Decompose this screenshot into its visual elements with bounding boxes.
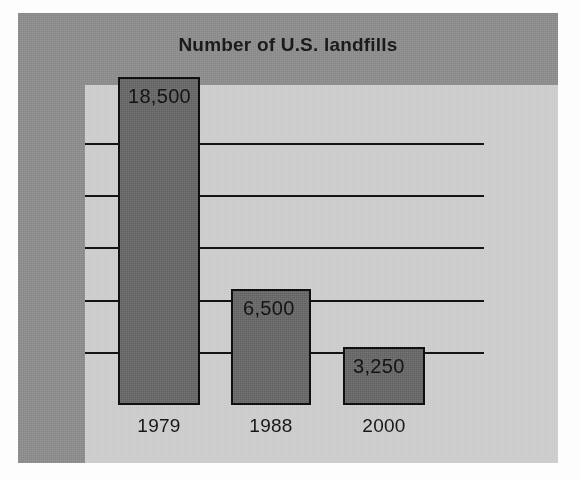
chart-panel: Number of U.S. landfills 18,50019796,500… (18, 13, 558, 463)
chart-screenshot: Number of U.S. landfills 18,50019796,500… (0, 0, 580, 479)
category-label-2000: 2000 (318, 415, 450, 437)
axis-tick (85, 300, 105, 302)
bar-1979 (118, 77, 200, 405)
bar-value-label: 3,250 (353, 355, 405, 378)
bar-value-label: 6,500 (243, 297, 295, 320)
axis-tick (85, 352, 105, 354)
plot-area: 18,50019796,50019883,2502000 (18, 13, 558, 463)
axis-tick (85, 247, 105, 249)
axis-tick (85, 195, 105, 197)
chart-title: Number of U.S. landfills (18, 34, 558, 56)
bar-value-label: 18,500 (128, 85, 191, 108)
axis-tick (85, 143, 105, 145)
